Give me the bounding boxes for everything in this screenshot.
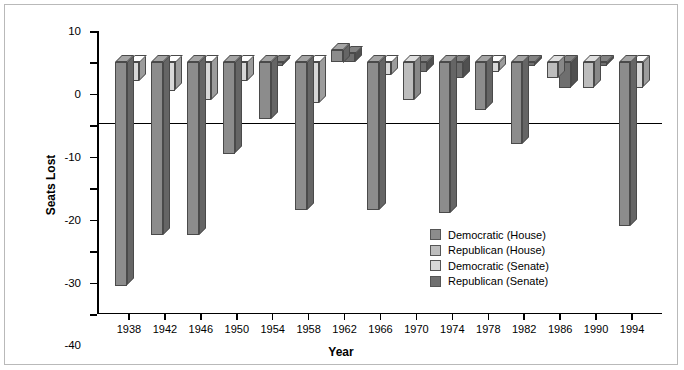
bar-front-face	[547, 62, 559, 78]
bar-front-face	[403, 62, 415, 100]
x-tick	[559, 313, 561, 320]
y-tick: -20	[90, 125, 97, 127]
bar-front-face	[511, 62, 523, 144]
bar-side-face	[414, 55, 421, 100]
y-axis-line	[97, 31, 99, 314]
y-tick: -50	[90, 220, 97, 222]
bar-side-face	[235, 55, 242, 153]
bar-1962-democratic-house	[331, 50, 343, 63]
x-tick	[236, 313, 238, 320]
x-tick-label: 1938	[117, 323, 141, 335]
x-tick-label: 1974	[440, 323, 464, 335]
bar-front-face	[367, 62, 379, 210]
x-tick-label: 1986	[548, 323, 572, 335]
bar-front-face	[331, 50, 343, 63]
bar-side-face	[450, 55, 457, 213]
bar-side-face	[127, 55, 134, 285]
y-tick: -30	[90, 157, 97, 159]
bar-1970-republican-house	[403, 62, 415, 100]
x-tick	[488, 313, 490, 320]
legend-swatch-icon	[430, 245, 441, 256]
bar-side-face	[379, 55, 386, 210]
bar-1978-democratic-house	[475, 62, 487, 109]
bar-1946-democratic-house	[187, 62, 199, 235]
chart-legend: Democratic (House)Republican (House)Demo…	[430, 227, 549, 289]
y-tick-label: -10	[64, 151, 81, 163]
y-tick: -10	[90, 94, 97, 96]
chart-frame: Seats Lost Year 100-10-20-30-40-50-60-70…	[4, 4, 678, 365]
y-tick-label: -40	[64, 339, 81, 351]
bar-front-face	[295, 62, 307, 210]
y-tick: -60	[90, 251, 97, 253]
bar-front-face	[151, 62, 163, 235]
bar-1950-democratic-house	[223, 62, 235, 153]
bar-side-face	[199, 55, 206, 235]
bar-1982-democratic-house	[511, 62, 523, 144]
x-tick	[595, 313, 597, 320]
x-tick	[200, 313, 202, 320]
x-tick	[128, 313, 130, 320]
x-tick-label: 1958	[296, 323, 320, 335]
x-tick	[272, 313, 274, 320]
x-tick-label: 1982	[512, 323, 536, 335]
bar-front-face	[115, 62, 127, 285]
bar-front-face	[439, 62, 451, 213]
bar-front-face	[475, 62, 487, 109]
bar-1942-democratic-house	[151, 62, 163, 235]
bar-1990-republican-house	[583, 62, 595, 87]
bar-1938-democratic-house	[115, 62, 127, 285]
y-tick-label: 0	[75, 88, 81, 100]
x-tick-label: 1990	[584, 323, 608, 335]
bar-side-face	[522, 55, 529, 144]
bar-1954-democratic-house	[259, 62, 271, 119]
bar-front-face	[619, 62, 631, 226]
bar-side-face	[486, 55, 493, 109]
y-tick: 10	[90, 31, 97, 33]
legend-item-3: Republican (Senate)	[430, 274, 549, 290]
x-tick	[631, 313, 633, 320]
legend-label: Democratic (House)	[448, 229, 546, 241]
x-tick	[416, 313, 418, 320]
bar-front-face	[223, 62, 235, 153]
legend-label: Republican (House)	[448, 244, 545, 256]
legend-swatch-icon	[430, 229, 441, 240]
bar-side-face	[271, 55, 278, 119]
y-axis-title: Seats Lost	[44, 154, 58, 215]
legend-item-2: Democratic (Senate)	[430, 258, 549, 274]
chart-screenshot: Seats Lost Year 100-10-20-30-40-50-60-70…	[0, 0, 684, 370]
plot-area: 100-10-20-30-40-50-60-70-80 193819421946…	[97, 31, 662, 314]
x-tick-label: 1946	[189, 323, 213, 335]
bar-side-face	[319, 55, 326, 103]
x-tick-label: 1954	[260, 323, 284, 335]
x-tick-label: 1942	[153, 323, 177, 335]
legend-swatch-icon	[430, 260, 441, 271]
x-tick-label: 1970	[404, 323, 428, 335]
bar-side-face	[307, 55, 314, 210]
bar-front-face	[187, 62, 199, 235]
x-tick-label: 1994	[620, 323, 644, 335]
x-tick	[344, 313, 346, 320]
x-tick	[523, 313, 525, 320]
bar-front-face	[583, 62, 595, 87]
bar-1994-democratic-house	[619, 62, 631, 226]
legend-label: Democratic (Senate)	[448, 260, 549, 272]
bar-1966-democratic-house	[367, 62, 379, 210]
x-axis-title: Year	[5, 345, 677, 359]
y-tick-label: -30	[64, 277, 81, 289]
legend-swatch-icon	[430, 276, 441, 287]
x-tick	[452, 313, 454, 320]
legend-label: Republican (Senate)	[448, 275, 548, 287]
bar-side-face	[630, 55, 637, 226]
x-tick-label: 1962	[332, 323, 356, 335]
x-tick	[308, 313, 310, 320]
legend-item-1: Republican (House)	[430, 243, 549, 259]
y-tick: -70	[90, 283, 97, 285]
bar-side-face	[211, 55, 218, 100]
y-tick: 0	[90, 62, 97, 64]
y-tick: -80	[90, 314, 97, 316]
x-tick	[164, 313, 166, 320]
bar-1974-democratic-house	[439, 62, 451, 213]
bar-front-face	[259, 62, 271, 119]
y-tick-label: -20	[64, 214, 81, 226]
legend-item-0: Democratic (House)	[430, 227, 549, 243]
